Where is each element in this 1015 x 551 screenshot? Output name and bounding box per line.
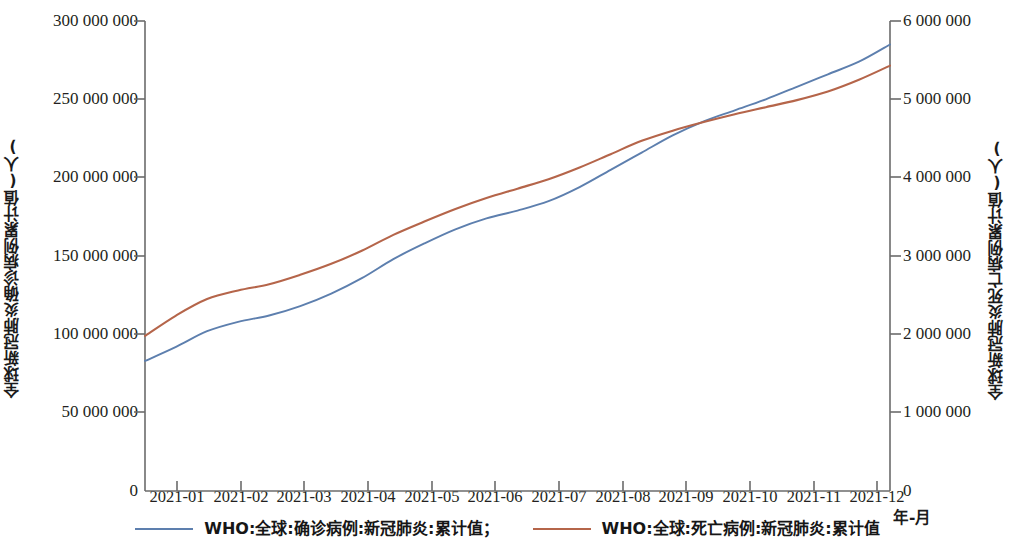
plot-area xyxy=(0,0,1015,551)
legend-color-swatch-deaths xyxy=(533,528,591,530)
chart-legend: WHO:全球:确诊病例:新冠肺炎:累计值； WHO:全球:死亡病例:新冠肺炎:累… xyxy=(0,521,1015,537)
legend-item-deaths: WHO:全球:死亡病例:新冠肺炎:累计值 xyxy=(533,521,880,537)
x-axis-ticks xyxy=(177,481,877,491)
legend-label-deaths: WHO:全球:死亡病例:新冠肺炎:累计值 xyxy=(602,521,880,537)
legend-label-confirmed: WHO:全球:确诊病例:新冠肺炎:累计值； xyxy=(204,521,498,537)
legend-color-swatch-confirmed xyxy=(135,528,193,530)
chart-container: 全球新冠肺炎确诊病例累计值(人) 全球新冠肺炎死亡病例累计值(人) 年-月 30… xyxy=(0,0,1015,551)
axis-spines xyxy=(145,21,890,491)
left-axis-ticks xyxy=(134,21,145,412)
right-axis-ticks xyxy=(890,21,901,412)
series-line-deaths xyxy=(145,66,890,336)
legend-item-confirmed-cases: WHO:全球:确诊病例:新冠肺炎:累计值； xyxy=(135,521,498,537)
series-line-confirmed-cases xyxy=(145,45,890,361)
